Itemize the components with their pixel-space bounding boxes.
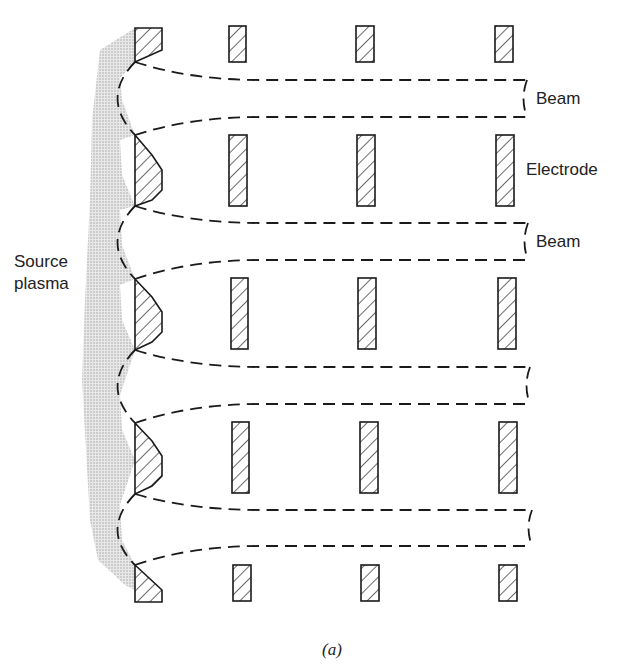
- electrode-1-1: [135, 28, 162, 62]
- electrode-4-1: [135, 423, 162, 494]
- figure-caption: (a): [322, 640, 342, 660]
- grid-electrodes: [229, 26, 517, 601]
- source-plasma-label-line2: plasma: [14, 274, 69, 294]
- ion-extraction-diagram: [0, 0, 622, 668]
- electrode-label: Electrode: [526, 160, 598, 180]
- source-plasma-region: [82, 28, 135, 590]
- first-electrode-column: [135, 28, 162, 602]
- beam-label-1: Beam: [536, 89, 580, 109]
- electrode-2-1: [135, 135, 162, 206]
- beam-label-2: Beam: [536, 232, 580, 252]
- electrode-3-1: [135, 279, 162, 350]
- source-plasma-label-line1: Source: [14, 252, 68, 272]
- beamlets: [118, 62, 533, 565]
- electrode-5-1: [135, 565, 162, 602]
